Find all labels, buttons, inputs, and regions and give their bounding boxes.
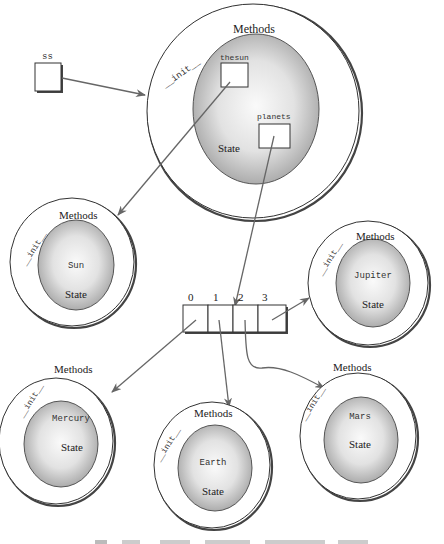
state-label: State bbox=[202, 485, 224, 497]
object-mercury: Methods __init__ Mercury State bbox=[0, 363, 115, 506]
methods-label: Methods bbox=[194, 407, 233, 419]
attribute-box-thesun bbox=[221, 63, 248, 87]
object-solar-system: Methods __init__ State thesun planets bbox=[147, 4, 362, 221]
caption-fragment bbox=[95, 540, 107, 544]
state-label: State bbox=[218, 142, 240, 154]
variable-ss: ss bbox=[35, 52, 63, 93]
object-jupiter: Methods __init__ Jupiter State bbox=[308, 221, 430, 347]
object-name: Mercury bbox=[52, 414, 90, 424]
object-name: Sun bbox=[68, 261, 84, 271]
list-index-0: 0 bbox=[188, 291, 194, 303]
arrow-ss-to-solarsystem bbox=[62, 78, 145, 95]
list-index-3: 3 bbox=[262, 291, 268, 303]
variable-name: ss bbox=[42, 52, 53, 62]
object-sun: Methods __init__ Sun State bbox=[10, 198, 136, 328]
planets-list: 0 1 2 3 bbox=[183, 291, 288, 334]
methods-label: Methods bbox=[333, 361, 372, 373]
object-mars: Methods __init__ Mars State bbox=[299, 361, 418, 501]
caption-fragment bbox=[265, 540, 325, 544]
reference-box bbox=[35, 63, 61, 91]
attribute-name-planets: planets bbox=[257, 112, 291, 121]
object-earth: Methods __init__ Earth State bbox=[154, 402, 272, 530]
caption-fragment bbox=[338, 540, 368, 544]
state-label: State bbox=[349, 438, 371, 450]
object-diagram: ss Methods __init__ State thesun planets… bbox=[0, 0, 444, 544]
object-name: Earth bbox=[199, 458, 226, 468]
list-cell-3 bbox=[258, 305, 286, 332]
caption-fragment bbox=[205, 540, 250, 544]
object-name: Mars bbox=[349, 412, 371, 422]
list-index-2: 2 bbox=[238, 291, 244, 303]
state-core bbox=[178, 425, 252, 511]
caption-fragment bbox=[122, 540, 140, 544]
methods-label: Methods bbox=[233, 22, 275, 36]
object-name: Jupiter bbox=[354, 271, 392, 281]
methods-label: Methods bbox=[54, 363, 93, 375]
state-label: State bbox=[362, 298, 384, 310]
caption-fragment bbox=[160, 540, 190, 544]
methods-label: Methods bbox=[356, 230, 395, 242]
methods-label: Methods bbox=[59, 209, 98, 221]
state-label: State bbox=[61, 441, 83, 453]
list-index-1: 1 bbox=[213, 291, 219, 303]
arrow-cell0-to-mercury bbox=[112, 320, 196, 392]
attribute-name-thesun: thesun bbox=[220, 53, 249, 62]
state-label: State bbox=[65, 288, 87, 300]
state-core bbox=[193, 34, 319, 184]
attribute-box-planets bbox=[259, 124, 290, 148]
state-core bbox=[336, 239, 410, 327]
